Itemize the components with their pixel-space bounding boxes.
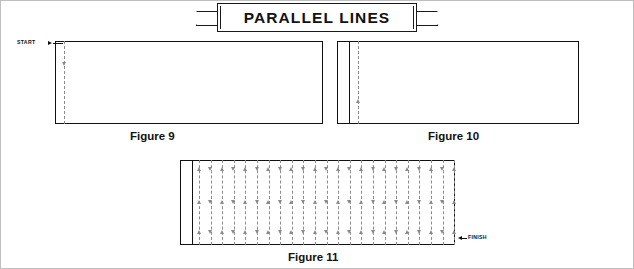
figure-11-direction-arrow-icon [382, 167, 386, 171]
figure-9-direction-arrow-icon [62, 62, 66, 66]
figure-11-direction-arrow-icon [266, 230, 270, 234]
figure-11-direction-arrow-icon [440, 230, 444, 234]
figure-11-direction-arrow-icon [220, 200, 224, 204]
figure-11-direction-arrow-icon [336, 200, 340, 204]
figure-11-direction-arrow-icon [347, 167, 351, 171]
figure-11-direction-arrow-icon [417, 167, 421, 171]
figure-11-direction-arrow-icon [429, 167, 433, 171]
figure-11-direction-arrow-icon [313, 200, 317, 204]
figure-11-direction-arrow-icon [301, 200, 305, 204]
figure-11-direction-arrow-icon [197, 200, 201, 204]
figure-11-direction-arrow-icon [231, 230, 235, 234]
figure-11-direction-arrow-icon [382, 200, 386, 204]
figure-11-direction-arrow-icon [278, 230, 282, 234]
figure-11-direction-arrow-icon [382, 230, 386, 234]
figure-11-direction-arrow-icon [371, 230, 375, 234]
figure-11-direction-arrow-icon [197, 167, 201, 171]
figure-11-direction-arrow-icon [255, 200, 259, 204]
figure-11-direction-arrow-icon [347, 230, 351, 234]
figure-11-direction-arrow-icon [336, 230, 340, 234]
start-label: START [17, 39, 35, 45]
figure-11-direction-arrow-icon [394, 167, 398, 171]
figure-11-direction-arrow-icon [324, 200, 328, 204]
figure-11-direction-arrow-icon [359, 200, 363, 204]
figure-11-direction-arrow-icon [417, 200, 421, 204]
figure-11-direction-arrow-icon [405, 167, 409, 171]
figure-11-direction-arrow-icon [313, 230, 317, 234]
figure-11-direction-arrow-icon [371, 200, 375, 204]
figure-11-direction-arrow-icon [440, 167, 444, 171]
figure-10-panel [337, 41, 579, 124]
figure-10-strip [337, 41, 350, 124]
figure-11-direction-arrow-icon [278, 200, 282, 204]
figure-11-direction-arrow-icon [359, 167, 363, 171]
figure-11-direction-arrow-icon [243, 167, 247, 171]
figure-11-direction-arrow-icon [301, 230, 305, 234]
figure-9-panel [55, 41, 323, 124]
figure-11-direction-arrow-icon [289, 230, 293, 234]
figure-11-direction-arrow-icon [324, 230, 328, 234]
start-arrow-icon [48, 41, 52, 45]
figure-11-direction-arrow-icon [220, 230, 224, 234]
figure-10-guide [358, 41, 359, 124]
figure-11-direction-arrow-icon [278, 167, 282, 171]
banner-notch-left [196, 11, 204, 25]
figure-11-direction-arrow-icon [208, 230, 212, 234]
figure-11-direction-arrow-icon [289, 167, 293, 171]
figure-11-direction-arrow-icon [255, 230, 259, 234]
figure-11-direction-arrow-icon [231, 167, 235, 171]
figure-11-direction-arrow-icon [243, 200, 247, 204]
figure-11-direction-arrow-icon [243, 230, 247, 234]
figure-11-direction-arrow-icon [440, 200, 444, 204]
figure-11-direction-arrow-icon [220, 167, 224, 171]
figure-10-direction-arrow-icon [356, 99, 360, 103]
figure-11-direction-arrow-icon [208, 200, 212, 204]
figure-11-direction-arrow-icon [371, 167, 375, 171]
figure-11-direction-arrow-icon [359, 230, 363, 234]
figure-11-direction-arrow-icon [347, 200, 351, 204]
figure-10-caption: Figure 10 [428, 130, 479, 142]
figure-11-direction-arrow-icon [452, 167, 456, 171]
figure-11-direction-arrow-icon [429, 200, 433, 204]
figure-9-start-guide [64, 41, 65, 124]
figure-11-direction-arrow-icon [255, 167, 259, 171]
figure-11-direction-arrow-icon [301, 167, 305, 171]
figure-11-direction-arrow-icon [452, 230, 456, 234]
figure-11-direction-arrow-icon [231, 200, 235, 204]
title-banner: PARALLEL LINES [196, 3, 438, 36]
page-title: PARALLEL LINES [217, 3, 417, 32]
figure-11-direction-arrow-icon [405, 200, 409, 204]
figure-11-direction-arrow-icon [266, 167, 270, 171]
figure-11-direction-arrow-icon [452, 200, 456, 204]
figure-11-direction-arrow-icon [417, 230, 421, 234]
figure-11-direction-arrow-icon [336, 167, 340, 171]
figure-9-caption: Figure 9 [130, 130, 175, 142]
figure-11-direction-arrow-icon [208, 167, 212, 171]
finish-label: FINISH [468, 234, 487, 240]
figure-11-direction-arrow-icon [429, 230, 433, 234]
figure-11-direction-arrow-icon [197, 230, 201, 234]
start-arrow-shaft [53, 43, 63, 44]
figure-11-caption: Figure 11 [288, 251, 339, 263]
figure-11-direction-arrow-icon [289, 200, 293, 204]
figure-11-direction-arrow-icon [394, 230, 398, 234]
finish-arrow-shaft [462, 238, 467, 239]
figure-11-direction-arrow-icon [405, 230, 409, 234]
figure-11-direction-arrow-icon [266, 200, 270, 204]
figure-11-direction-arrow-icon [394, 200, 398, 204]
banner-notch-right [430, 11, 438, 25]
figure-11-direction-arrow-icon [313, 167, 317, 171]
figure-11-strip [180, 160, 193, 245]
figure-11-direction-arrow-icon [324, 167, 328, 171]
